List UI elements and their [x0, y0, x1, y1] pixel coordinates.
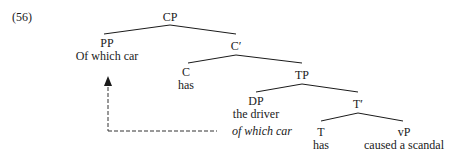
node-vp-text: caused a scandal: [364, 139, 444, 152]
arrowhead-icon: [104, 76, 112, 86]
node-pp-text: Of which car: [76, 50, 139, 63]
node-dp-trace: of which car: [232, 125, 292, 138]
node-t-text: has: [313, 139, 329, 152]
node-dp-text: the driver: [233, 108, 279, 121]
node-tp: TP: [295, 69, 309, 82]
node-tbar: T′: [353, 98, 363, 111]
node-cp: CP: [163, 11, 178, 24]
node-c-text: has: [178, 79, 194, 92]
tree-lines: [0, 0, 455, 159]
movement-arrow: [108, 87, 217, 131]
node-cbar: C′: [231, 40, 242, 53]
example-number: (56): [12, 10, 32, 25]
